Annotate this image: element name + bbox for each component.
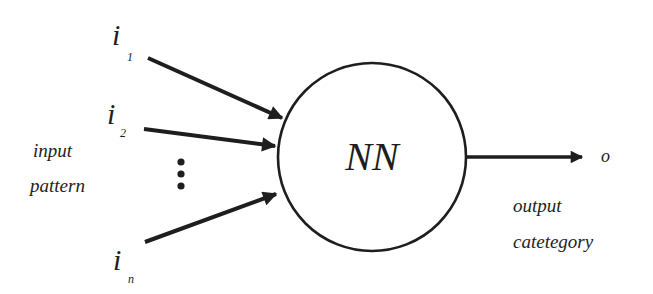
output-category-label-line1: output [513, 195, 562, 216]
output-symbol: o [601, 146, 610, 166]
input-pattern-label-line2: pattern [28, 175, 85, 196]
svg-text:i: i [107, 97, 115, 130]
input-pattern-label-line1: input [33, 140, 73, 161]
input-1-label: i 1 [112, 18, 133, 64]
svg-text:n: n [128, 272, 134, 286]
svg-text:1: 1 [127, 50, 133, 64]
neural-network-diagram: NN i 1 i 2 i n input pattern o [0, 0, 653, 294]
ellipsis-icon [177, 158, 184, 189]
nn-node-label: NN [344, 134, 401, 179]
input-n-label: i n [113, 243, 134, 286]
svg-text:2: 2 [120, 126, 126, 140]
input-1-arrow [148, 58, 282, 118]
svg-text:i: i [112, 18, 120, 51]
nn-node: NN [278, 63, 466, 251]
input-2-label: i 2 [107, 97, 126, 140]
svg-text:i: i [113, 243, 121, 276]
input-2-arrow [144, 129, 275, 146]
input-n-arrow [145, 194, 276, 242]
output-category-label-line2: catetegory [513, 231, 594, 252]
